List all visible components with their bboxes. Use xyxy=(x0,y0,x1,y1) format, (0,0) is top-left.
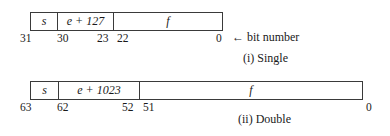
double-fraction-field: f xyxy=(139,82,362,99)
double-caption: (ii) Double xyxy=(238,113,291,126)
single-exponent-field: e + 127 xyxy=(57,13,113,30)
double-bit-62: 62 xyxy=(57,101,69,113)
double-exponent-label: e + 1023 xyxy=(77,83,120,98)
single-bit-23: 23 xyxy=(97,32,109,44)
single-fraction-field: f xyxy=(113,13,222,30)
double-sign-field: s xyxy=(31,82,58,99)
double-fraction-label: f xyxy=(249,83,252,98)
single-sign-field: s xyxy=(31,13,57,30)
single-caption: (i) Single xyxy=(243,52,288,65)
double-sign-label: s xyxy=(42,83,47,98)
single-bit-22: 22 xyxy=(117,32,129,44)
single-bit-30: 30 xyxy=(57,32,69,44)
double-precision-layout: s e + 1023 f xyxy=(30,81,363,100)
single-bit-31: 31 xyxy=(20,32,32,44)
double-bit-63: 63 xyxy=(20,101,32,113)
single-exponent-label: e + 127 xyxy=(67,14,104,29)
bit-number-label: ← bit number xyxy=(232,31,299,44)
single-bit-0: 0 xyxy=(216,32,222,44)
double-bit-51: 51 xyxy=(143,101,155,113)
single-sign-label: s xyxy=(42,14,47,29)
double-bit-0: 0 xyxy=(366,101,372,113)
single-fraction-label: f xyxy=(166,14,169,29)
double-exponent-field: e + 1023 xyxy=(58,82,139,99)
single-precision-layout: s e + 127 f xyxy=(30,12,223,31)
double-bit-52: 52 xyxy=(122,101,134,113)
